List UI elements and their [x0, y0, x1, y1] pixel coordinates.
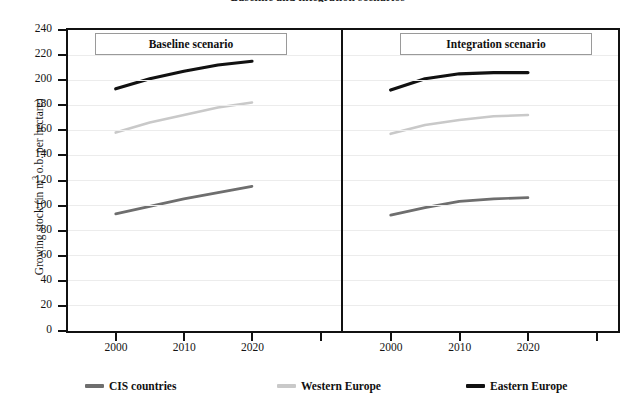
figure-title: Baseline and integration scenarios [0, 0, 636, 2]
y-axis-title-suffix: o.b. per hectare) [33, 98, 45, 176]
series-line [391, 73, 528, 91]
gridline [68, 280, 618, 281]
plot-area [66, 28, 620, 333]
y-axis-tick-label: 60 [0, 248, 52, 260]
x-axis-tick [320, 333, 322, 341]
y-axis-tick [58, 305, 66, 307]
y-axis-tick-label: 100 [0, 198, 52, 210]
legend-item[interactable]: CIS countries [85, 374, 176, 398]
series-line [116, 186, 252, 214]
x-axis-tick [390, 333, 392, 341]
legend-label: CIS countries [109, 380, 176, 392]
gridline [68, 105, 618, 106]
legend-label: Western Europe [301, 380, 381, 392]
x-axis-tick-label: 2020 [500, 341, 556, 353]
y-axis-tick-label: 140 [0, 147, 52, 159]
x-axis-tick [251, 333, 253, 341]
x-axis-tick [459, 333, 461, 341]
gridline [68, 230, 618, 231]
y-axis-tick-label: 20 [0, 298, 52, 310]
x-axis-tick [596, 333, 598, 341]
gridline [68, 80, 618, 81]
x-axis-tick-label: 2010 [156, 341, 212, 353]
figure-container: Baseline and integration scenarios Growi… [0, 0, 636, 407]
x-axis-tick [115, 333, 117, 341]
plot-inner [68, 30, 618, 331]
gridline [68, 205, 618, 206]
gridline [68, 130, 618, 131]
x-axis-tick-label: 2010 [432, 341, 488, 353]
y-axis-tick-label: 200 [0, 72, 52, 84]
y-axis-tick-label: 120 [0, 173, 52, 185]
gridline [68, 305, 618, 306]
x-axis-tick [183, 333, 185, 341]
legend-item[interactable]: Western Europe [277, 374, 381, 398]
chart-legend: CIS countriesWestern EuropeEastern Europ… [0, 374, 636, 398]
legend-item[interactable]: Eastern Europe [466, 374, 567, 398]
y-axis-tick [58, 280, 66, 282]
gridline [68, 255, 618, 256]
y-axis-tick [58, 180, 66, 182]
x-axis-tick [527, 333, 529, 341]
y-axis-tick [58, 54, 66, 56]
legend-label: Eastern Europe [490, 380, 567, 392]
gridline [68, 55, 618, 56]
y-axis-tick [58, 205, 66, 207]
gridline [68, 155, 618, 156]
legend-swatch-icon [85, 384, 104, 387]
y-axis-tick [58, 104, 66, 106]
y-axis-tick [58, 29, 66, 31]
y-axis-tick-label: 40 [0, 273, 52, 285]
x-axis-tick-label: 2000 [88, 341, 144, 353]
y-axis-tick-label: 160 [0, 122, 52, 134]
y-axis-tick [58, 129, 66, 131]
x-axis-tick-label: 2020 [224, 341, 280, 353]
panel-divider [341, 30, 343, 331]
y-axis-tick [58, 255, 66, 257]
y-axis-tick [58, 79, 66, 81]
series-line [391, 198, 528, 216]
series-line [116, 103, 252, 133]
x-axis-tick-label: 2000 [363, 341, 419, 353]
gridline [68, 180, 618, 181]
series-line [116, 61, 252, 89]
y-axis-tick-label: 240 [0, 22, 52, 34]
y-axis-tick [58, 154, 66, 156]
scenario-caption-integration: Integration scenario [400, 33, 592, 55]
y-axis-tick-label: 180 [0, 97, 52, 109]
y-axis-tick-label: 220 [0, 47, 52, 59]
legend-swatch-icon [466, 384, 485, 388]
y-axis-tick [58, 230, 66, 232]
legend-swatch-icon [277, 384, 296, 387]
y-axis-tick [58, 330, 66, 332]
scenario-caption-baseline: Baseline scenario [95, 33, 287, 55]
y-axis-tick-label: 0 [0, 323, 52, 335]
y-axis-tick-label: 80 [0, 223, 52, 235]
